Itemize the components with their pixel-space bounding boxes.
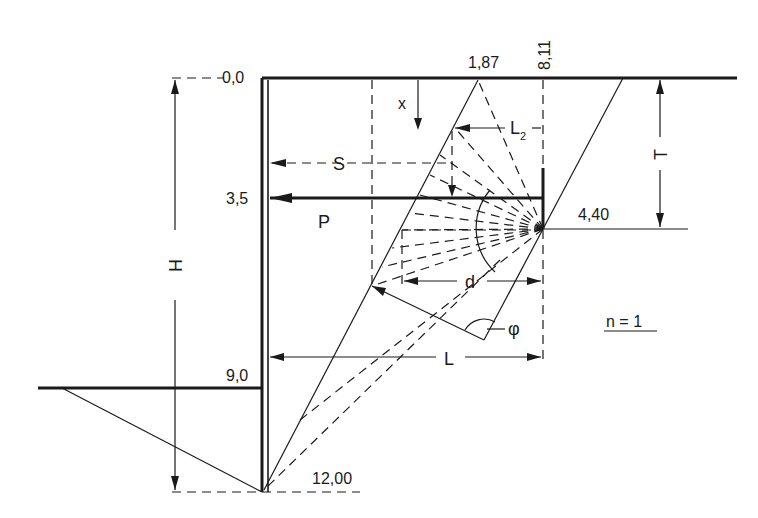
angle-arc bbox=[476, 190, 495, 272]
fan-lines bbox=[264, 80, 543, 490]
sheet-pile-wall bbox=[262, 78, 268, 492]
label-d: d bbox=[465, 272, 475, 292]
label-P: P bbox=[318, 212, 330, 232]
label-depth-anchor: 3,5 bbox=[226, 190, 248, 207]
label-anchor-depth: 4,40 bbox=[578, 206, 609, 223]
label-L2: L bbox=[510, 118, 520, 138]
label-depth-toe: 12,00 bbox=[312, 470, 352, 487]
label-wedge-top: 1,87 bbox=[468, 54, 499, 71]
label-H: H bbox=[166, 259, 186, 272]
label-x: x bbox=[398, 95, 406, 112]
label-phi: φ bbox=[508, 319, 520, 339]
label-S: S bbox=[333, 154, 345, 174]
reaction-line bbox=[372, 286, 484, 340]
label-T: T bbox=[651, 149, 671, 160]
anchor-wall-diagram: 0,0 3,5 9,0 12,00 1,87 8,11 4,40 x S P L… bbox=[0, 0, 758, 518]
slip-plane-line bbox=[264, 80, 478, 490]
label-L: L bbox=[444, 349, 454, 369]
passive-wedge-line bbox=[62, 388, 262, 492]
label-depth-excavation: 9,0 bbox=[226, 367, 248, 384]
height-dimension-H bbox=[171, 80, 179, 490]
label-depth-0: 0,0 bbox=[222, 69, 244, 86]
label-n: n = 1 bbox=[606, 313, 642, 330]
label-anchor-x: 8,11 bbox=[536, 40, 553, 70]
label-L2-sub: 2 bbox=[520, 130, 526, 142]
